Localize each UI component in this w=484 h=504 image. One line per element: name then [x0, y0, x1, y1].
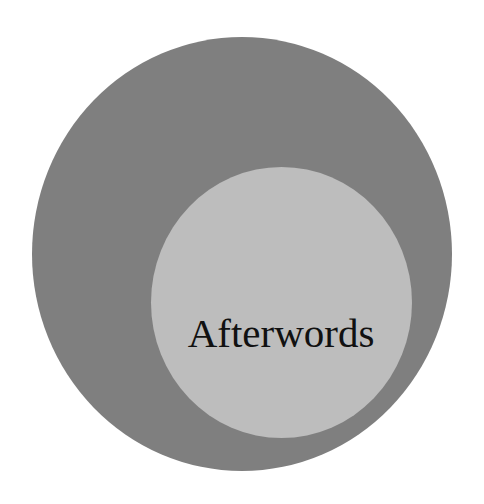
inner-circle	[151, 167, 412, 438]
section-title: Afterwords	[175, 309, 387, 357]
afterwords-graphic: Afterwords	[0, 0, 484, 504]
